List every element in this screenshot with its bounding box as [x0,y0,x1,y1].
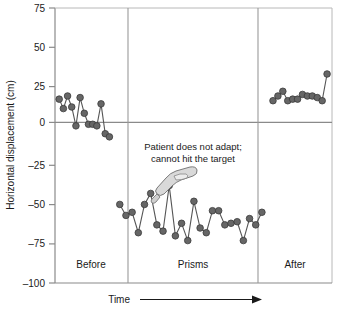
data-point-marker [259,209,266,216]
data-point-marker [178,220,185,227]
data-point-marker [324,71,331,78]
time-arrow-head [252,296,262,304]
data-point-marker [197,225,204,232]
y-tick-label: –100 [23,278,46,289]
data-point-marker [184,237,191,244]
data-point-marker [141,201,148,208]
data-point-marker [73,123,80,130]
data-point-marker [215,207,222,214]
chart-svg: 75 50 25 0 –25 –50 –75 –100 Horizontal d… [0,0,345,312]
panel-label-prisms: Prisms [178,259,209,270]
data-point-marker [68,104,75,111]
data-point-marker [280,88,287,95]
data-point-marker [240,237,247,244]
data-point-marker [98,101,105,108]
data-point-marker [123,212,130,219]
y-axis-ticks [49,8,55,283]
data-point-marker [209,207,216,214]
data-point-marker [147,190,154,197]
data-point-marker [319,97,326,104]
no-adapt-annotation: Patient does not adapt; cannot hit the t… [144,141,242,164]
data-point-marker [154,222,161,229]
y-tick-label: 0 [39,117,45,128]
data-point-marker [77,94,84,101]
annotation-line-1: Patient does not adapt; [144,141,242,152]
panel-label-before: Before [76,259,106,270]
data-point-marker [60,105,67,112]
data-point-marker [81,110,88,117]
y-tick-label: 25 [34,81,46,92]
x-axis-title: Time [108,294,130,305]
y-axis-tick-labels: 75 50 25 0 –25 –50 –75 –100 [23,3,46,289]
time-axis-arrow: Time [108,294,262,305]
annotation-line-2: cannot hit the target [151,153,235,164]
data-point-marker [234,218,241,225]
data-point-marker [94,123,101,130]
data-point-marker [64,93,71,100]
y-tick-label: –25 [28,160,45,171]
data-point-marker [56,96,63,103]
y-tick-label: 75 [34,3,46,14]
data-point-marker [116,201,123,208]
data-point-marker [160,228,167,235]
y-tick-label: 50 [34,42,46,53]
data-point-marker [129,209,136,216]
y-axis-title: Horizontal displacement (cm) [5,80,16,210]
data-point-marker [135,229,142,236]
data-point-marker [246,215,253,222]
data-point-marker [191,198,198,205]
y-tick-label: –75 [28,238,45,249]
data-point-marker [203,229,210,236]
data-point-marker [228,220,235,227]
y-tick-label: –50 [28,199,45,210]
data-point-marker [106,134,113,141]
chart-figure: 75 50 25 0 –25 –50 –75 –100 Horizontal d… [0,0,345,312]
panel-label-after: After [284,259,306,270]
data-point-marker [222,222,229,229]
data-point-marker [172,233,179,240]
data-point-marker [252,222,259,229]
